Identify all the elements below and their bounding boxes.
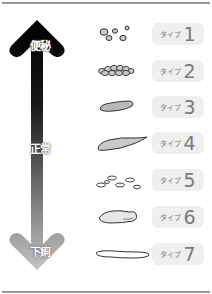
diarrhea-label: 下痢 [6,243,74,259]
type-badge-6: タイプ 6 [152,206,204,228]
lumpy-sausage-icon [95,56,153,86]
normal-label: 正常 [6,140,74,156]
type-badge-3: タイプ 3 [152,96,204,118]
type-row-1: タイプ 1 [95,19,210,49]
top-divider [2,2,210,4]
mushy-pieces-icon [95,202,153,232]
type-badge-4: タイプ 4 [152,132,204,154]
type-row-3: タイプ 3 [95,92,210,122]
smooth-snake-icon [95,128,153,158]
cracked-sausage-icon [95,92,153,122]
type-row-7: タイプ 7 [95,239,210,269]
constipation-label: 便秘 [6,37,74,53]
type-row-2: タイプ 2 [95,56,210,86]
type-badge-7: タイプ 7 [152,243,204,265]
constipation-diarrhea-scale: 便秘 正常 下痢 [6,17,68,273]
bottom-divider [2,291,210,293]
type-badge-5: タイプ 5 [152,169,204,191]
separate-hard-lumps-icon [95,19,153,49]
type-row-5: タイプ 5 [95,165,210,195]
watery-icon [95,239,153,269]
type-badge-2: タイプ 2 [152,60,204,82]
soft-blobs-icon [95,165,153,195]
type-badge-1: タイプ 1 [152,23,204,45]
type-row-4: タイプ 4 [95,128,210,158]
type-row-6: タイプ 6 [95,202,210,232]
